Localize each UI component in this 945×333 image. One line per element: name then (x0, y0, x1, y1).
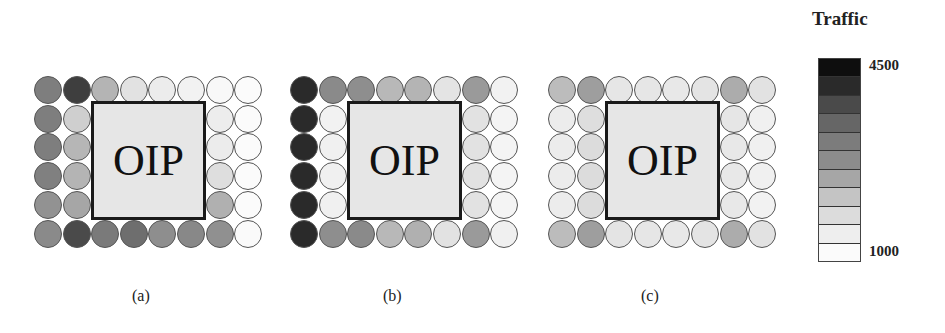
router-node (548, 133, 576, 161)
router-node (720, 191, 748, 219)
panel-c: OIP (548, 76, 778, 248)
colorbar-segment (819, 77, 860, 95)
router-node (462, 191, 490, 219)
router-node (748, 220, 776, 248)
router-node (319, 191, 347, 219)
router-node (63, 105, 91, 133)
router-node (234, 105, 262, 133)
router-node (433, 76, 461, 104)
router-node (319, 162, 347, 190)
router-node (462, 220, 490, 248)
router-node (404, 76, 432, 104)
router-node (120, 220, 148, 248)
router-node (577, 220, 605, 248)
router-node (347, 220, 375, 248)
router-node (63, 76, 91, 104)
router-node (177, 220, 205, 248)
router-node (63, 191, 91, 219)
router-node (748, 191, 776, 219)
router-node (662, 220, 690, 248)
legend-title: Traffic (812, 8, 868, 30)
router-node (376, 220, 404, 248)
router-node (34, 133, 62, 161)
router-node (148, 220, 176, 248)
router-node (290, 191, 318, 219)
router-node (290, 76, 318, 104)
router-node (720, 105, 748, 133)
router-node (577, 133, 605, 161)
router-node (748, 133, 776, 161)
router-node (319, 133, 347, 161)
router-node (433, 220, 461, 248)
router-node (548, 191, 576, 219)
oip-node: OIP (605, 101, 720, 220)
router-node (748, 105, 776, 133)
router-node (234, 133, 262, 161)
router-node (290, 162, 318, 190)
router-node (319, 220, 347, 248)
router-node (490, 191, 518, 219)
colorbar-segment (819, 151, 860, 169)
router-node (290, 105, 318, 133)
router-node (34, 105, 62, 133)
router-node (206, 105, 234, 133)
router-node (234, 220, 262, 248)
router-node (290, 133, 318, 161)
router-node (148, 76, 176, 104)
router-node (63, 133, 91, 161)
router-node (177, 76, 205, 104)
router-node (548, 220, 576, 248)
panel-b: OIP (290, 76, 520, 248)
router-node (34, 162, 62, 190)
router-node (404, 220, 432, 248)
router-node (634, 76, 662, 104)
router-node (462, 76, 490, 104)
router-node (319, 105, 347, 133)
colorbar-segment (819, 133, 860, 151)
legend-max-label: 4500 (869, 57, 899, 74)
router-node (206, 220, 234, 248)
router-node (290, 220, 318, 248)
colorbar-segment (819, 59, 860, 77)
panel-a: OIP (34, 76, 264, 248)
router-node (720, 220, 748, 248)
router-node (720, 133, 748, 161)
router-node (577, 191, 605, 219)
router-node (347, 76, 375, 104)
router-node (319, 76, 347, 104)
router-node (206, 162, 234, 190)
router-node (120, 76, 148, 104)
traffic-colorbar (818, 58, 861, 262)
router-node (662, 76, 690, 104)
panel-label-a: (a) (132, 287, 150, 305)
router-node (234, 162, 262, 190)
router-node (91, 76, 119, 104)
router-node (234, 191, 262, 219)
router-node (490, 220, 518, 248)
router-node (548, 105, 576, 133)
router-node (234, 76, 262, 104)
router-node (720, 162, 748, 190)
router-node (605, 76, 633, 104)
router-node (206, 133, 234, 161)
router-node (63, 220, 91, 248)
router-node (548, 76, 576, 104)
colorbar-segment (819, 225, 860, 243)
router-node (34, 191, 62, 219)
oip-node: OIP (91, 101, 206, 220)
panel-label-c: (c) (641, 287, 659, 305)
colorbar-segment (819, 170, 860, 188)
router-node (206, 191, 234, 219)
router-node (634, 220, 662, 248)
router-node (34, 220, 62, 248)
router-node (490, 162, 518, 190)
oip-node: OIP (347, 101, 462, 220)
router-node (376, 76, 404, 104)
router-node (748, 76, 776, 104)
panel-label-b: (b) (383, 287, 402, 305)
router-node (748, 162, 776, 190)
router-node (691, 220, 719, 248)
colorbar-segment (819, 114, 860, 132)
colorbar-segment (819, 207, 860, 225)
router-node (462, 162, 490, 190)
